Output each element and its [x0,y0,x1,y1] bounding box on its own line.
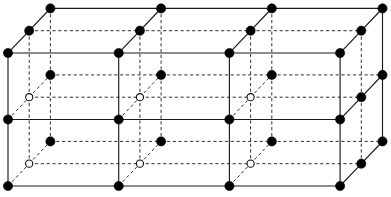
lattice-node-filled [114,48,123,57]
lattice-node-filled [46,4,55,13]
lattice-node-filled [157,137,166,146]
lattice-node-filled [225,48,234,57]
lattice-node-filled [378,4,387,13]
lattice-node-filled [267,70,276,79]
lattice-node-filled [3,115,12,124]
lattice-node-filled [225,115,234,124]
lattice-node-filled [46,137,55,146]
lattice-node-filled [357,159,366,168]
lattice-node-filled [114,181,123,190]
lattice-node-filled [114,115,123,124]
lattice-node-filled [267,137,276,146]
lattice-node-filled [3,48,12,57]
lattice-node-open [247,160,254,167]
lattice-node-filled [157,4,166,13]
lattice-node-filled [357,93,366,102]
lattice-node-filled [378,70,387,79]
lattice-node-filled [378,137,387,146]
lattice-node-filled [336,48,345,57]
lattice-node-filled [157,70,166,79]
lattice-node-open [136,160,143,167]
lattice-node-filled [25,26,34,35]
crystal-lattice-diagram [0,0,391,197]
lattice-node-filled [357,26,366,35]
lattice-node-filled [3,181,12,190]
lattice-node-filled [225,181,234,190]
lattice-node-filled [267,4,276,13]
lattice-node-open [247,94,254,101]
lattice-node-filled [336,115,345,124]
hidden-edge-layer [8,8,383,186]
lattice-node-filled [135,26,144,35]
lattice-node-filled [46,70,55,79]
lattice-node-open [26,160,33,167]
lattice-figure [0,0,391,197]
lattice-node-open [136,94,143,101]
lattice-node-filled [336,181,345,190]
lattice-node-filled [246,26,255,35]
lattice-node-open [26,94,33,101]
